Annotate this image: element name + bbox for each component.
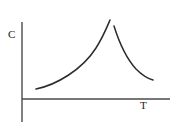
plot-canvas: [0, 0, 178, 131]
curve-above-transition: [114, 26, 153, 80]
y-axis-label: C: [8, 29, 15, 40]
curve-below-transition: [36, 20, 110, 89]
x-axis-label: T: [140, 100, 147, 111]
figure-container: C T: [0, 0, 178, 131]
